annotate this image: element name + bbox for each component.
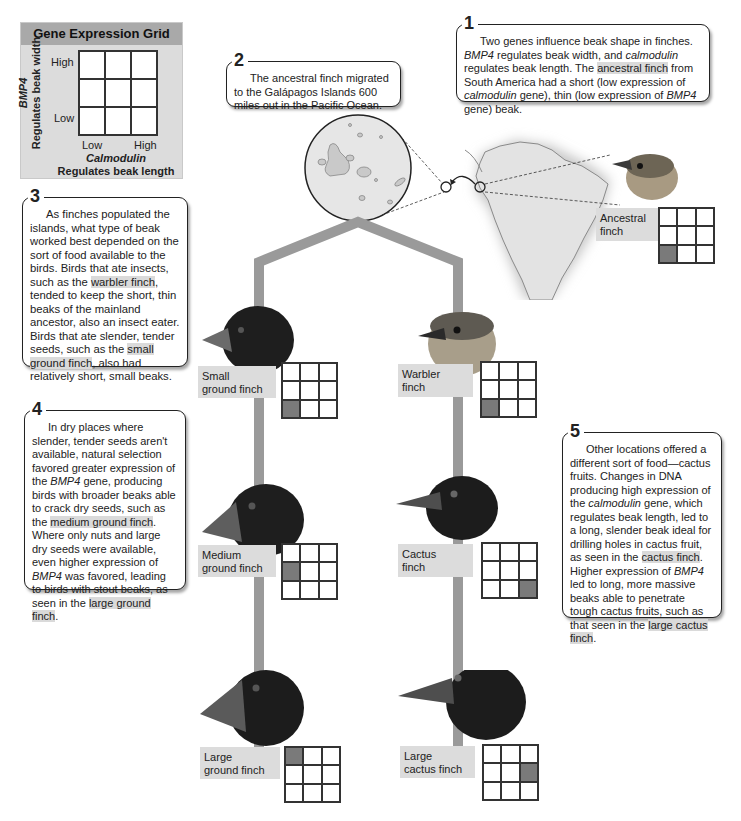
expression-grid-small-ground <box>281 362 338 419</box>
finch-label-warbler: Warblerfinch <box>398 364 473 397</box>
large-cactus-finch-head <box>394 670 534 745</box>
expression-grid-large-ground <box>284 746 341 803</box>
finch-label-small-ground: Smallground finch <box>198 366 276 398</box>
ancestral-finch-head <box>610 148 680 208</box>
finch-label-large-ground: Largeground finch <box>200 747 280 779</box>
expression-grid-medium-ground <box>281 543 338 600</box>
expression-grid-large-cactus <box>482 744 539 801</box>
expression-grid-cactus <box>481 542 538 599</box>
expression-grid-warbler <box>480 361 537 418</box>
expression-grid-ancestral <box>658 207 715 264</box>
finch-label-medium-ground: Mediumground finch <box>198 545 276 577</box>
finch-label-ancestral: Ancestralfinch <box>596 208 658 241</box>
finch-label-large-cactus: Largecactus finch <box>400 746 475 778</box>
finch-label-cactus: Cactusfinch <box>398 544 473 577</box>
phylogeny-branches <box>0 0 741 821</box>
large-ground-finch-head <box>196 670 306 755</box>
cactus-finch-head <box>394 472 504 547</box>
